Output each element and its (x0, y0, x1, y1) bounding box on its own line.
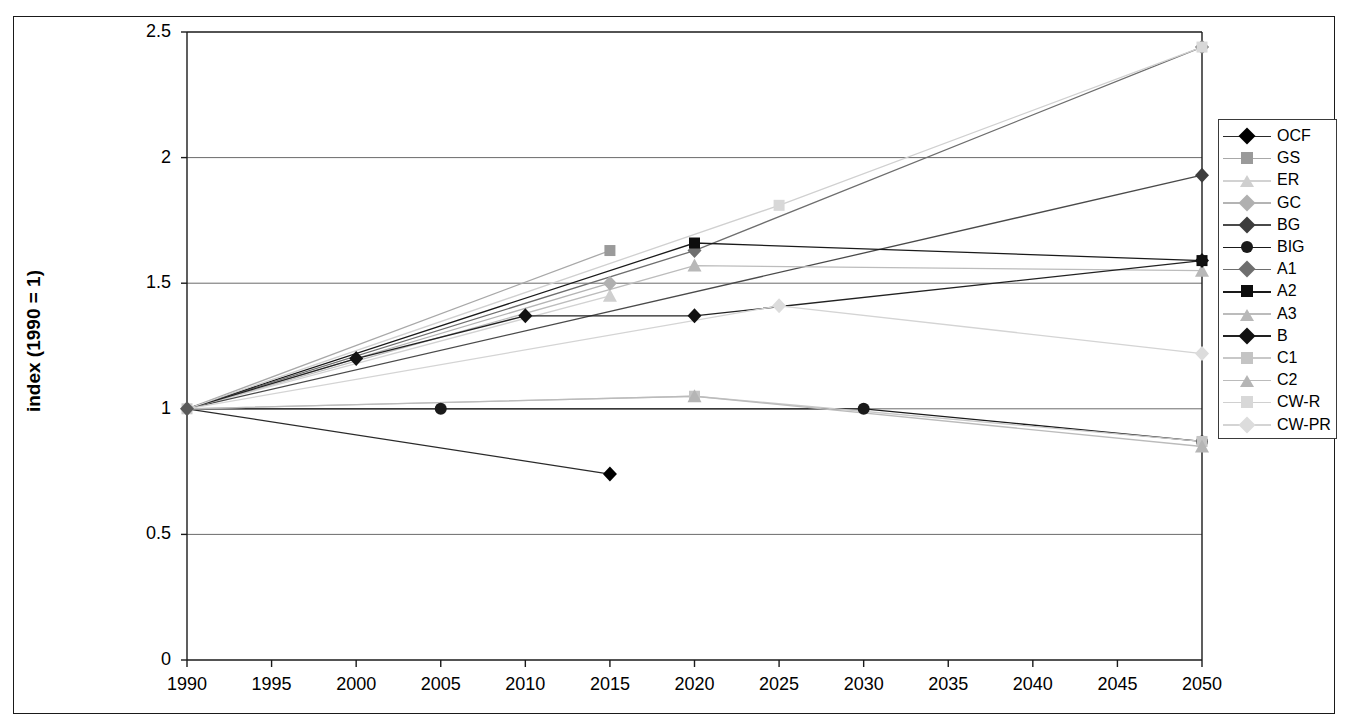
legend-diamond-icon (1239, 327, 1256, 344)
legend-square-icon (1241, 396, 1253, 408)
plot-canvas (0, 0, 1349, 728)
legend-item-bg[interactable]: BG (1219, 214, 1336, 236)
series-line-a3 (187, 266, 1202, 409)
legend-label: BIG (1271, 238, 1305, 256)
legend-item-b[interactable]: B (1219, 325, 1336, 347)
legend-square-icon (1241, 152, 1253, 164)
legend-key (1223, 370, 1271, 390)
legend-key (1223, 281, 1271, 301)
legend-label: CW-R (1271, 393, 1320, 411)
legend-label: GS (1271, 149, 1300, 167)
series-marker-b (349, 351, 363, 366)
legend-item-cw-r[interactable]: CW-R (1219, 391, 1336, 413)
series-marker-big (435, 403, 447, 415)
series-marker-cw-r (774, 200, 785, 211)
axis-ticks (181, 32, 1202, 667)
legend-label: A2 (1271, 282, 1297, 300)
x-tick-label: 2035 (913, 674, 983, 695)
legend-item-c2[interactable]: C2 (1219, 369, 1336, 391)
legend-label: GC (1271, 194, 1301, 212)
legend-key (1223, 392, 1271, 412)
legend-circle-icon (1241, 241, 1253, 253)
legend-key (1223, 148, 1271, 168)
series-line-gs (187, 251, 610, 409)
x-tick-label: 1990 (152, 674, 222, 695)
series-marker-bg (1195, 168, 1209, 183)
series-marker-big (858, 403, 870, 415)
x-tick-label: 2020 (660, 674, 730, 695)
x-tick-label: 2010 (490, 674, 560, 695)
legend-item-c1[interactable]: C1 (1219, 347, 1336, 369)
legend-label: B (1271, 327, 1288, 345)
legend-label: BG (1271, 216, 1300, 234)
legend-key (1223, 126, 1271, 146)
chart-legend: OCFGSERGCBGBIGA1A2A3BC1C2CW-RCW-PR (1218, 119, 1337, 439)
series-marker-cw-r (1197, 42, 1208, 53)
series-line-big (187, 409, 1202, 442)
series-line-bg (187, 175, 1202, 409)
chart-figure: index (1990 = 1) 00.511.522.5 1990199520… (0, 0, 1349, 728)
x-tick-label: 2040 (998, 674, 1068, 695)
legend-item-gs[interactable]: GS (1219, 147, 1336, 169)
x-tick-label: 2050 (1167, 674, 1237, 695)
legend-item-big[interactable]: BIG (1219, 236, 1336, 258)
y-tick-label: 1.5 (121, 272, 171, 293)
legend-item-a1[interactable]: A1 (1219, 258, 1336, 280)
legend-square-icon (1241, 285, 1253, 297)
y-tick-label: 2.5 (121, 21, 171, 42)
y-tick-label: 0 (121, 649, 171, 670)
legend-key (1223, 170, 1271, 190)
legend-item-gc[interactable]: GC (1219, 192, 1336, 214)
series-marker-cw-pr (1195, 346, 1209, 361)
legend-label: A3 (1271, 305, 1297, 323)
legend-key (1223, 348, 1271, 368)
legend-key (1223, 193, 1271, 213)
legend-diamond-icon (1239, 216, 1256, 233)
y-tick-label: 0.5 (121, 523, 171, 544)
series-marker-cw-pr (772, 298, 786, 313)
legend-triangle-icon (1240, 175, 1254, 187)
legend-label: A1 (1271, 260, 1297, 278)
x-tick-label: 2000 (321, 674, 391, 695)
legend-diamond-icon (1239, 261, 1256, 278)
legend-item-a2[interactable]: A2 (1219, 280, 1336, 302)
legend-item-er[interactable]: ER (1219, 169, 1336, 191)
legend-label: C1 (1271, 349, 1297, 367)
legend-key (1223, 326, 1271, 346)
legend-item-cw-pr[interactable]: CW-PR (1219, 413, 1336, 435)
series-line-c2 (187, 396, 1202, 446)
series-line-cw-r (187, 47, 1202, 409)
x-tick-label: 2015 (575, 674, 645, 695)
series-marker-gs (604, 245, 615, 256)
legend-triangle-icon (1240, 375, 1254, 387)
x-tick-label: 1995 (237, 674, 307, 695)
x-tick-label: 2025 (744, 674, 814, 695)
y-tick-label: 2 (121, 147, 171, 168)
legend-key (1223, 304, 1271, 324)
legend-key (1223, 415, 1271, 435)
y-tick-label: 1 (121, 398, 171, 419)
legend-label: OCF (1271, 127, 1311, 145)
series-line-ocf (187, 409, 610, 474)
legend-diamond-icon (1239, 416, 1256, 433)
legend-diamond-icon (1239, 128, 1256, 145)
legend-triangle-icon (1240, 309, 1254, 321)
series-marker-a2 (689, 238, 700, 249)
x-tick-label: 2045 (1082, 674, 1152, 695)
gridlines-group (187, 32, 1202, 660)
series-line-a1 (187, 47, 1202, 409)
legend-key (1223, 215, 1271, 235)
legend-square-icon (1241, 352, 1253, 364)
series-marker-b (518, 308, 532, 323)
series-line-c1 (187, 396, 1202, 441)
x-tick-label: 2030 (829, 674, 899, 695)
plot-frame (187, 32, 1202, 660)
series-marker-ocf (603, 467, 617, 482)
series-line-er (187, 296, 610, 409)
legend-label: CW-PR (1271, 416, 1331, 434)
x-tick-label: 2005 (406, 674, 476, 695)
legend-diamond-icon (1239, 194, 1256, 211)
legend-item-ocf[interactable]: OCF (1219, 125, 1336, 147)
legend-label: C2 (1271, 371, 1297, 389)
legend-item-a3[interactable]: A3 (1219, 303, 1336, 325)
